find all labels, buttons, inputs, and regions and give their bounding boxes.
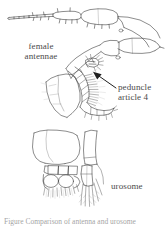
label-peduncle-line2: article 4 [118, 93, 151, 103]
peduncle-article-4 [81, 9, 124, 32]
label-peduncle-article-4: peduncle article 4 [118, 83, 151, 102]
peduncle-cluster [41, 54, 118, 120]
label-female-antennae-line2: antennae [13, 52, 69, 62]
urosome-setae-haze [46, 188, 73, 198]
second-antenna-row [66, 38, 164, 78]
uropod-peduncle-shaft [84, 130, 98, 165]
urosome-segments [43, 166, 80, 189]
label-urosome: urosome [111, 182, 143, 192]
flagellum-mid-articles [29, 12, 53, 21]
label-female-antennae: female antennae [13, 42, 69, 61]
urosome-body-outline [33, 130, 81, 164]
terminal-dactyl [80, 103, 118, 121]
peduncle-plate [46, 74, 80, 117]
arrow-to-peduncle-article-4 [93, 72, 116, 88]
figure-container: female antennae peduncle article 4 uroso… [0, 0, 166, 226]
urosome-fringe-setae [44, 185, 79, 197]
figure-caption-text: Figure Comparison of antenna and urosome [4, 218, 136, 226]
peduncle-article-4-joint [86, 54, 104, 71]
uropod-rami [79, 165, 102, 206]
line-drawing-illustration [0, 0, 166, 226]
peduncle-article-5 [53, 8, 81, 24]
flagellum-distal-articles [8, 16, 30, 19]
antenna-connector-right [118, 17, 160, 47]
urosome-drawing [33, 130, 104, 206]
figure-caption-strip: Figure Comparison of antenna and urosome [0, 218, 166, 226]
